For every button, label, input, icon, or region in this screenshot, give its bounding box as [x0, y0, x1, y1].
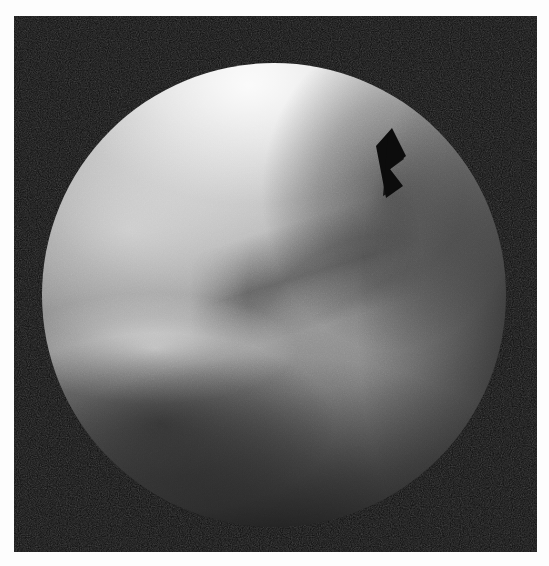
field-of-view-wrapper [14, 16, 537, 552]
page-canvas: Arthroscopy / endoscopic still capture G… [0, 0, 549, 566]
circular-vignette-layer [14, 16, 537, 552]
image-frame [14, 16, 537, 552]
endoscopic-field-of-view [14, 16, 537, 552]
